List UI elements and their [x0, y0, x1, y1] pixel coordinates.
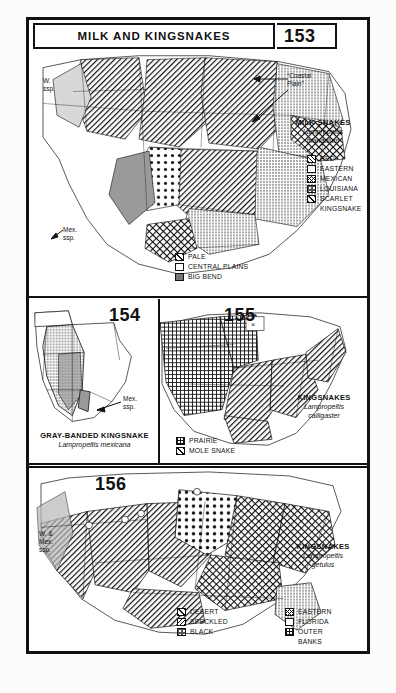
legend-item: MOLE SNAKE — [176, 447, 235, 455]
legend-155: PRAIRIE MOLE SNAKE — [176, 437, 235, 457]
plate-number-156: 156 — [95, 474, 127, 495]
annotation-coastal-plain: “Coastal Plain” — [287, 72, 311, 88]
species-name-156: KINGSNAKES — [281, 542, 365, 551]
plate-number-153: 153 — [284, 26, 316, 47]
caption-156: KINGSNAKES Lampropeltis getulus — [281, 542, 365, 569]
legend-label: CENTRAL PLAINS — [188, 263, 248, 271]
swatch-big-bend-icon — [175, 273, 184, 281]
legend-item: CENTRAL PLAINS — [175, 263, 248, 271]
annotation-mex-ssp-154: Mex. ssp. — [123, 395, 137, 411]
plate-title: MILK AND KINGSNAKES — [78, 30, 231, 42]
legend-item: SCARLET — [307, 195, 361, 203]
swatch-florida-icon — [285, 618, 294, 626]
scientific-name-156-line2: getulus — [281, 560, 365, 569]
scientific-name-154: Lampropeltis mexicana — [29, 440, 160, 449]
legend-item: RED — [307, 155, 361, 163]
legend-label: BLACK — [190, 628, 213, 636]
swatch-desert-icon — [177, 608, 186, 616]
legend-item: MEXICAN — [307, 175, 361, 183]
legend-153-bottom: PALE CENTRAL PLAINS BIG BEND — [175, 253, 248, 283]
swatch-black-icon — [177, 628, 186, 636]
legend-label: PALE — [188, 253, 206, 261]
scientific-name-155-line2: calligaster — [284, 411, 364, 420]
legend-item: OUTER — [285, 628, 332, 636]
swatch-red-icon — [307, 155, 316, 163]
swatch-prairie-icon — [176, 437, 185, 445]
swatch-speckled-icon — [177, 618, 186, 626]
legend-label: LOUISIANA — [320, 185, 358, 193]
scientific-name-153-line2: triangulum — [281, 136, 365, 145]
species-name-155: KINGSNAKES — [284, 393, 364, 402]
plate-frame: MILK AND KINGSNAKES 153 “Coastal Plain” … — [26, 17, 370, 654]
legend-label: BIG BEND — [188, 273, 222, 281]
legend-item: FLORIDA — [285, 618, 332, 626]
legend-item: DESERT — [177, 608, 228, 616]
legend-item: EASTERN — [307, 165, 361, 173]
annotation-west-ssp-153: W. ssp. — [43, 77, 55, 93]
legend-item: SPECKLED — [177, 618, 228, 626]
caption-154: GRAY-BANDED KINGSNAKE Lampropeltis mexic… — [29, 431, 160, 449]
caption-155: KINGSNAKES Lampropeltis calligaster — [284, 393, 364, 420]
panel-153-milk-snakes: MILK AND KINGSNAKES 153 “Coastal Plain” … — [29, 20, 367, 298]
legend-item: LOUISIANA — [307, 185, 361, 193]
legend-label-continued: KINGSNAKE — [320, 205, 361, 213]
legend-156-right: EASTERN FLORIDA OUTER BANKS — [285, 608, 332, 646]
swatch-outer-banks-icon — [285, 628, 294, 636]
swatch-mexican-icon — [307, 175, 316, 183]
legend-label: FLORIDA — [298, 618, 329, 626]
scientific-name-156-line1: Lampropeltis — [281, 551, 365, 560]
legend-label: MEXICAN — [320, 175, 352, 183]
panel-156-kingsnakes-getulus: 156 W. & Mex. ssp. KINGSNAKES Lampropelt… — [29, 466, 367, 651]
swatch-scarlet-icon — [307, 195, 316, 203]
legend-label: EASTERN — [298, 608, 332, 616]
annotation-west-mex-ssp-156: W. & Mex. ssp. — [39, 530, 53, 554]
panel-155-kingsnakes-calligaster: × 155 KINGSNAKES Lampropeltis calligaste… — [160, 299, 367, 465]
swatch-mole-snake-icon — [176, 447, 185, 455]
swatch-pale-icon — [175, 253, 184, 261]
caption-153: MILK SNAKES Lampropeltis triangulum — [281, 118, 365, 145]
legend-item: PRAIRIE — [176, 437, 235, 445]
legend-label: PRAIRIE — [189, 437, 218, 445]
plate-number-155: 155 — [224, 305, 256, 326]
legend-153-right: RED EASTERN MEXICAN LOUISIANA SCARLET — [307, 155, 361, 213]
species-name-153: MILK SNAKES — [281, 118, 365, 127]
plate-number-154: 154 — [109, 305, 141, 326]
swatch-central-plains-icon — [175, 263, 184, 271]
legend-label: SPECKLED — [190, 618, 228, 626]
legend-label: RED — [320, 155, 335, 163]
legend-156-left: DESERT SPECKLED BLACK — [177, 608, 228, 638]
swatch-eastern-icon — [285, 608, 294, 616]
legend-item: EASTERN — [285, 608, 332, 616]
panel-154-gray-banded-kingsnake: 154 Mex. ssp. GRAY-BANDED KINGSNAKE Lamp… — [29, 299, 160, 465]
swatch-louisiana-icon — [307, 185, 316, 193]
legend-item: BLACK — [177, 628, 228, 636]
legend-label: MOLE SNAKE — [189, 447, 235, 455]
legend-label: SCARLET — [320, 195, 353, 203]
plate-title-bar: MILK AND KINGSNAKES — [33, 23, 275, 49]
page-background: MILK AND KINGSNAKES 153 “Coastal Plain” … — [0, 0, 396, 693]
legend-item: PALE — [175, 253, 248, 261]
legend-label: DESERT — [190, 608, 219, 616]
legend-label: OUTER — [298, 628, 323, 636]
legend-item: BIG BEND — [175, 273, 248, 281]
legend-label-continued: BANKS — [298, 638, 332, 646]
mex-ssp-arrow-154 — [93, 399, 123, 413]
swatch-eastern-icon — [307, 165, 316, 173]
legend-label: EASTERN — [320, 165, 354, 173]
annotation-mex-ssp-153: Mex. ssp. — [63, 226, 77, 242]
scientific-name-153-line1: Lampropeltis — [281, 127, 365, 136]
species-name-154: GRAY-BANDED KINGSNAKE — [29, 431, 160, 440]
scientific-name-155-line1: Lampropeltis — [284, 402, 364, 411]
